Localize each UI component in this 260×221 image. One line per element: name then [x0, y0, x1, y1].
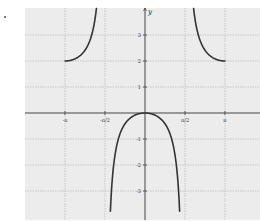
y-tick-label: -2: [136, 162, 141, 168]
x-tick-label: -π/2: [100, 117, 110, 123]
y-tick-label: 1: [138, 84, 141, 90]
stray-dot: [4, 16, 6, 18]
function-graph: y -π-π/2π/2π321-1-2-3: [0, 0, 260, 221]
y-tick-label: 3: [138, 32, 141, 38]
x-tick-label: π/2: [181, 117, 189, 123]
y-tick-label: -1: [136, 136, 141, 142]
x-tick-label: -π: [63, 117, 69, 123]
y-tick-label: 2: [138, 58, 141, 64]
y-tick-label: -3: [136, 188, 141, 194]
